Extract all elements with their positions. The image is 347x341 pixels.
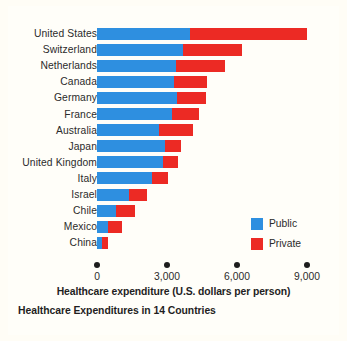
bar-segment-public [97, 108, 172, 120]
stacked-bar [97, 92, 206, 104]
x-tick-label: 3,000 [132, 271, 202, 282]
legend-swatch-private-icon [251, 238, 263, 250]
legend-item-private[interactable]: Private [251, 236, 331, 254]
x-tick-dot [304, 262, 310, 268]
bar-segment-public [97, 140, 165, 152]
chart-row: France [0, 107, 347, 122]
chart-row: Italy [0, 171, 347, 186]
legend-label: Public [269, 216, 297, 232]
x-tick-dot [164, 262, 170, 268]
chart-row: Australia [0, 123, 347, 138]
bar-segment-private [172, 108, 199, 120]
x-tick-label: 9,000 [272, 271, 342, 282]
bar-segment-public [97, 60, 176, 72]
stacked-bar [97, 44, 242, 56]
bar-segment-public [97, 189, 129, 201]
stacked-bar [97, 140, 181, 152]
x-tick-label: 6,000 [202, 271, 272, 282]
bar-segment-public [97, 28, 190, 40]
bar-segment-private [129, 189, 147, 201]
bar-segment-public [97, 205, 116, 217]
category-label-united-kingdom: United Kingdom [0, 155, 97, 170]
stacked-bar [97, 60, 225, 72]
bar-segment-private [163, 156, 178, 168]
category-label-japan: Japan [0, 139, 97, 154]
bar-segment-private [174, 76, 207, 88]
bar-segment-public [97, 124, 159, 136]
category-label-france: France [0, 107, 97, 122]
legend-item-public[interactable]: Public [251, 216, 331, 234]
category-label-australia: Australia [0, 123, 97, 138]
chart-row: Israel [0, 187, 347, 202]
category-label-chile: Chile [0, 203, 97, 218]
bar-segment-private [108, 221, 122, 233]
stacked-bar [97, 76, 207, 88]
category-label-italy: Italy [0, 171, 97, 186]
x-axis-label: Healthcare expenditure (U.S. dollars per… [0, 286, 347, 297]
bar-segment-public [97, 172, 152, 184]
figure-panel: United StatesSwitzerlandNetherlandsCanad… [0, 0, 347, 341]
legend-label: Private [269, 236, 301, 252]
stacked-bar [97, 189, 147, 201]
chart-row: Japan [0, 139, 347, 154]
stacked-bar [97, 108, 199, 120]
stacked-bar [97, 124, 193, 136]
category-label-canada: Canada [0, 74, 97, 89]
bar-segment-public [97, 44, 183, 56]
bar-segment-private [159, 124, 193, 136]
chart-row: Switzerland [0, 42, 347, 57]
bar-segment-private [190, 28, 307, 40]
chart-legend: PublicPrivate [251, 216, 331, 256]
bar-segment-public [97, 76, 174, 88]
category-label-china: China [0, 235, 97, 250]
bar-segment-public [97, 92, 177, 104]
category-label-netherlands: Netherlands [0, 58, 97, 73]
x-tick-dot [94, 262, 100, 268]
bar-segment-private [152, 172, 168, 184]
stacked-bar [97, 156, 178, 168]
bar-segment-private [165, 140, 181, 152]
chart-row: United Kingdom [0, 155, 347, 170]
bar-segment-private [102, 237, 108, 249]
bar-segment-private [183, 44, 241, 56]
category-label-mexico: Mexico [0, 219, 97, 234]
stacked-bar [97, 221, 122, 233]
bar-segment-public [97, 221, 108, 233]
category-label-united-states: United States [0, 26, 97, 41]
stacked-bar [97, 205, 135, 217]
bar-segment-private [177, 92, 206, 104]
chart-row: Netherlands [0, 58, 347, 73]
x-tick-dot [234, 262, 240, 268]
bar-segment-public [97, 156, 163, 168]
chart-title: Healthcare Expenditures in 14 Countries [18, 305, 216, 316]
stacked-bar [97, 28, 307, 40]
legend-swatch-public-icon [251, 218, 263, 230]
x-tick-label: 0 [62, 271, 132, 282]
category-label-germany: Germany [0, 90, 97, 105]
category-label-israel: Israel [0, 187, 97, 202]
bar-segment-private [176, 60, 225, 72]
bar-segment-private [116, 205, 135, 217]
stacked-bar [97, 172, 168, 184]
category-label-switzerland: Switzerland [0, 42, 97, 57]
chart-row: Germany [0, 90, 347, 105]
stacked-bar [97, 237, 108, 249]
chart-row: United States [0, 26, 347, 41]
chart-row: Canada [0, 74, 347, 89]
